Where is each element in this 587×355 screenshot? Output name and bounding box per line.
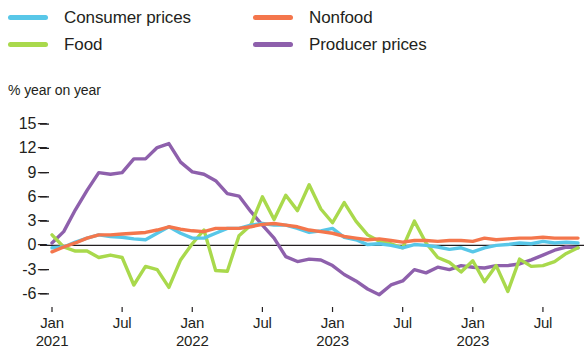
y-axis-tick-label: 15	[2, 116, 36, 132]
y-axis-tick-dash: –	[38, 188, 47, 204]
x-axis-year-label: 2023	[443, 332, 503, 350]
x-axis-tick-label: Jul	[92, 314, 152, 332]
x-axis-month-label: Jan	[162, 314, 222, 332]
y-axis-tick-label: 3	[2, 213, 36, 229]
x-axis-month-label: Jan	[303, 314, 363, 332]
y-axis-tick-dash: –	[38, 212, 47, 228]
x-axis-tick-label: Jan2023	[443, 314, 503, 350]
x-axis-month-label: Jan	[443, 314, 503, 332]
y-axis-tick-label: -3	[2, 262, 36, 278]
y-axis-tick-dash: –	[38, 115, 47, 131]
y-axis-tick-dash: –	[38, 164, 47, 180]
x-axis-year-label: 2023	[303, 332, 363, 350]
x-axis-tick-label: Jan2022	[162, 314, 222, 350]
plot-area	[0, 0, 587, 355]
series-line-consumer-prices	[52, 224, 578, 252]
x-axis-tick-label: Jan2021	[22, 314, 82, 350]
y-axis-tick-label: -6	[2, 286, 36, 302]
y-axis-tick-label: 0	[2, 237, 36, 253]
x-axis-year-label: 2021	[22, 332, 82, 350]
y-axis-tick-label: 12	[2, 140, 36, 156]
x-axis-month-label: Jul	[92, 314, 152, 332]
x-axis-tick-label: Jul	[373, 314, 433, 332]
y-axis-tick-dash: –	[38, 261, 47, 277]
x-axis-month-label: Jul	[513, 314, 573, 332]
x-axis-tick-label: Jan2023	[303, 314, 363, 350]
y-axis-tick-dash: –	[38, 285, 47, 301]
plot-svg	[0, 0, 587, 355]
inflation-line-chart-figure: Consumer prices Nonfood Food Producer pr…	[0, 0, 587, 355]
x-axis-month-label: Jul	[232, 314, 292, 332]
x-axis-tick-label: Jul	[513, 314, 573, 332]
x-axis-month-label: Jan	[22, 314, 82, 332]
x-axis-month-label: Jul	[373, 314, 433, 332]
y-axis-tick-label: 9	[2, 165, 36, 181]
y-axis-tick-dash: –	[38, 139, 47, 155]
y-axis-tick-label: 6	[2, 189, 36, 205]
y-axis-tick-dash: –	[38, 236, 47, 252]
x-axis-year-label: 2022	[162, 332, 222, 350]
x-axis-tick-label: Jul	[232, 314, 292, 332]
